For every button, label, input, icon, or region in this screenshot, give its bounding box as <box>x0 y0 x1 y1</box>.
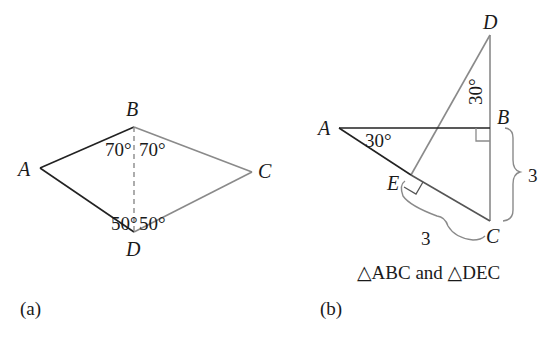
right-angle-marker-b <box>476 128 490 141</box>
caption-b: (b) <box>320 298 342 320</box>
angle-cbd-label: 70° <box>139 139 166 160</box>
length-bc-label: 3 <box>528 165 538 186</box>
angle-bde-label: 30° <box>465 78 486 105</box>
vertex-b-label: B <box>497 106 509 128</box>
subtitle-b: △ABC and △DEC <box>357 262 500 283</box>
figure-a: A B C D 70° 70° 50° 50° (a) <box>16 98 272 320</box>
vertex-c-label: C <box>486 225 500 247</box>
angle-abd-label: 70° <box>105 139 132 160</box>
vertex-a-label: A <box>16 158 31 180</box>
vertex-a-label: A <box>316 117 331 139</box>
brace-bc <box>503 128 520 221</box>
length-ec-label: 3 <box>421 228 431 249</box>
segment-ec <box>411 175 490 221</box>
geometry-diagram: A B C D 70° 70° 50° 50° (a) D B A E C 30… <box>0 0 547 338</box>
vertex-c-label: C <box>258 160 272 182</box>
caption-a: (a) <box>20 298 41 320</box>
vertex-e-label: E <box>386 172 399 194</box>
vertex-d-label: D <box>482 11 498 33</box>
angle-bac-label: 30° <box>365 130 392 151</box>
right-angle-marker-e <box>404 182 423 194</box>
angle-cdb-label: 50° <box>139 213 166 234</box>
vertex-b-label: B <box>126 98 138 120</box>
figure-b: D B A E C 30° 30° 3 3 △ABC and △DEC (b) <box>316 11 538 320</box>
vertex-d-label: D <box>125 238 141 260</box>
angle-adb-label: 50° <box>111 213 138 234</box>
